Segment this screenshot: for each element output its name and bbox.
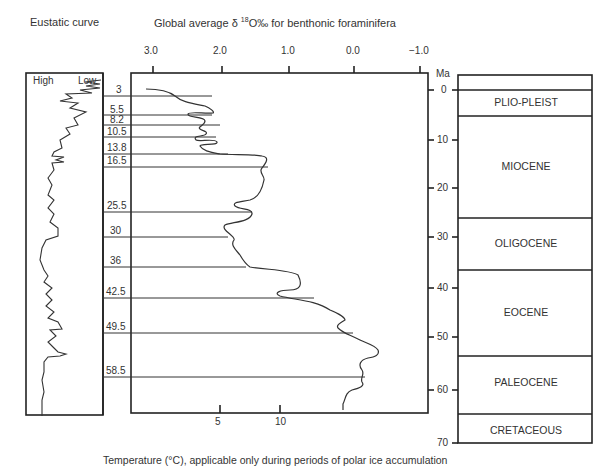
chart-graphics: [0, 0, 599, 472]
epoch-column: [458, 75, 592, 443]
eustatic-curve: [40, 80, 101, 416]
boundary-lines: [103, 96, 365, 377]
eustatic-panel: [26, 73, 103, 415]
main-plot-frame: [131, 73, 428, 413]
